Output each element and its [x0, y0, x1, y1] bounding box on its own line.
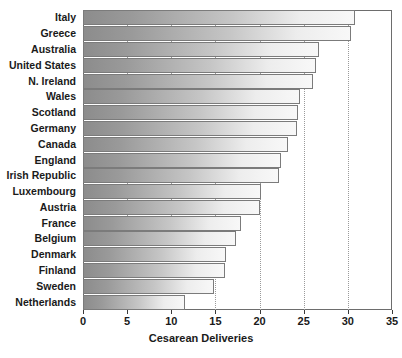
x-tick-label-0: 0 — [80, 315, 86, 327]
category-label-finland: Finland — [39, 263, 76, 278]
bar-belgium — [83, 231, 236, 246]
category-label-irish-republic: Irish Republic — [7, 168, 76, 183]
bar-scotland — [83, 105, 298, 120]
bar-n-ireland — [83, 74, 313, 89]
bar-netherlands — [83, 295, 185, 310]
x-tick-label-10: 10 — [165, 315, 177, 327]
x-tick-mark-20 — [260, 310, 261, 314]
bar-row — [83, 295, 392, 310]
x-tick-label-20: 20 — [253, 315, 265, 327]
bar-australia — [83, 42, 319, 57]
category-label-n-ireland: N. Ireland — [28, 74, 76, 89]
bar-row — [83, 89, 392, 104]
bar-germany — [83, 121, 297, 136]
bar-row — [83, 42, 392, 57]
category-axis-labels: ItalyGreeceAustraliaUnited StatesN. Irel… — [0, 10, 80, 310]
bar-france — [83, 216, 241, 231]
bar-row — [83, 200, 392, 215]
bar-row — [83, 263, 392, 278]
category-label-austria: Austria — [40, 200, 76, 215]
category-label-sweden: Sweden — [36, 279, 76, 294]
bar-united-states — [83, 58, 316, 73]
bar-irish-republic — [83, 168, 279, 183]
category-label-canada: Canada — [38, 137, 76, 152]
bar-row — [83, 74, 392, 89]
bar-sweden — [83, 279, 214, 294]
bar-row — [83, 26, 392, 41]
bar-row — [83, 216, 392, 231]
category-label-united-states: United States — [9, 58, 76, 73]
bar-row — [83, 153, 392, 168]
bar-england — [83, 153, 281, 168]
bar-row — [83, 168, 392, 183]
bar-finland — [83, 263, 225, 278]
x-tick-mark-35 — [392, 310, 393, 314]
bar-row — [83, 184, 392, 199]
category-label-belgium: Belgium — [35, 231, 76, 246]
x-tick-mark-25 — [304, 310, 305, 314]
category-label-wales: Wales — [46, 89, 76, 104]
x-axis-title: Cesarean Deliveries — [0, 332, 402, 344]
category-label-luxembourg: Luxembourg — [12, 184, 76, 199]
category-label-denmark: Denmark — [31, 247, 76, 262]
bar-italy — [83, 10, 355, 25]
bar-row — [83, 247, 392, 262]
bar-row — [83, 279, 392, 294]
category-label-australia: Australia — [31, 42, 76, 57]
x-tick-mark-5 — [127, 310, 128, 314]
x-tick-label-35: 35 — [386, 315, 398, 327]
cesarean-deliveries-bar-chart: ItalyGreeceAustraliaUnited StatesN. Irel… — [0, 0, 402, 358]
category-label-italy: Italy — [55, 10, 76, 25]
bars-group — [83, 10, 392, 310]
category-label-germany: Germany — [30, 121, 76, 136]
bar-row — [83, 137, 392, 152]
x-tick-label-5: 5 — [124, 315, 130, 327]
x-tick-label-30: 30 — [342, 315, 354, 327]
bar-row — [83, 58, 392, 73]
category-label-england: England — [35, 153, 76, 168]
x-tick-mark-10 — [171, 310, 172, 314]
x-tick-mark-0 — [83, 310, 84, 314]
bar-austria — [83, 200, 260, 215]
bar-row — [83, 231, 392, 246]
bar-wales — [83, 89, 300, 104]
x-tick-mark-15 — [215, 310, 216, 314]
bar-row — [83, 10, 392, 25]
bar-row — [83, 121, 392, 136]
category-label-france: France — [42, 216, 76, 231]
x-tick-mark-30 — [348, 310, 349, 314]
x-tick-label-25: 25 — [298, 315, 310, 327]
bar-denmark — [83, 247, 226, 262]
bar-greece — [83, 26, 351, 41]
bar-canada — [83, 137, 288, 152]
category-label-netherlands: Netherlands — [15, 295, 76, 310]
category-label-greece: Greece — [40, 26, 76, 41]
category-label-scotland: Scotland — [32, 105, 76, 120]
bar-row — [83, 105, 392, 120]
x-tick-label-15: 15 — [209, 315, 221, 327]
bar-luxembourg — [83, 184, 261, 199]
